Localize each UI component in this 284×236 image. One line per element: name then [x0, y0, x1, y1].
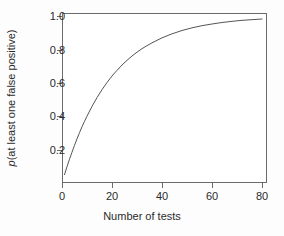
y-tick-label: 1.0	[50, 11, 65, 22]
x-tick-mark	[112, 183, 113, 188]
x-tick-mark	[212, 183, 213, 188]
chart-plot-svg	[62, 13, 267, 183]
y-axis-title: p(at least one false positive)	[5, 30, 17, 167]
x-tick-label: 80	[256, 191, 268, 202]
x-tick-label: 0	[59, 191, 65, 202]
x-tick-label: 60	[206, 191, 218, 202]
x-axis-title: Number of tests	[0, 210, 284, 222]
y-axis-title-p: p	[5, 160, 17, 166]
x-tick-mark	[262, 183, 263, 188]
chart-figure: 0.20.40.60.81.0 020406080 Number of test…	[0, 0, 284, 236]
y-tick-label: 0.4	[50, 111, 65, 122]
x-tick-label: 20	[106, 191, 118, 202]
series-line-false-positive	[65, 19, 263, 175]
y-tick-label: 0.6	[50, 78, 65, 89]
y-axis-title-rest: (at least one false positive)	[5, 30, 17, 161]
y-tick-label: 0.8	[50, 45, 65, 56]
x-tick-label: 40	[156, 191, 168, 202]
y-tick-label: 0.2	[50, 145, 65, 156]
x-tick-mark	[62, 183, 63, 188]
y-axis-title-wrapper: p(at least one false positive)	[2, 0, 20, 196]
x-tick-mark	[162, 183, 163, 188]
